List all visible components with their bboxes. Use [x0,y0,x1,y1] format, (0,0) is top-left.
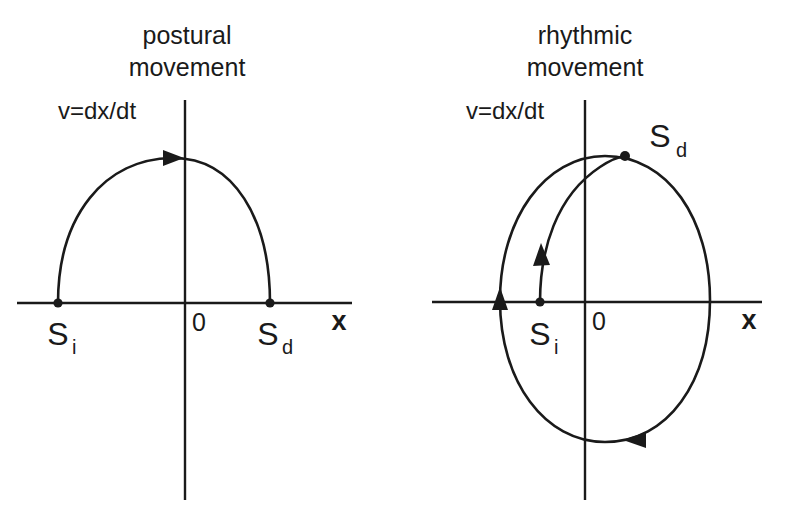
panel-rhythmic: rhythmic movement v=dx/dt x 0 S d S i [432,21,762,500]
postural-point-s-i-dot [53,298,62,307]
rhythmic-point-s-i-subscript: i [554,336,558,358]
postural-point-s-i-subscript: i [72,336,76,358]
panel-postural-title-line1: postural [143,21,232,49]
panel-rhythmic-x-axis-name: x [741,305,756,335]
panel-postural-origin-label: 0 [192,308,206,336]
rhythmic-limit-cycle-arrowhead-left [492,287,508,310]
rhythmic-point-s-i-label: S [529,316,550,352]
postural-trajectory-curve [58,158,270,303]
figure-canvas: postural movement v=dx/dt x 0 S i S d rh… [0,0,791,521]
rhythmic-point-s-d-label: S [649,118,670,154]
rhythmic-limit-cycle [500,156,710,442]
panel-rhythmic-title-line1: rhythmic [538,21,632,49]
postural-point-s-d-label: S [257,316,278,352]
panel-postural-title-line2: movement [129,53,246,81]
rhythmic-inner-transient [540,156,625,302]
postural-point-s-d-dot [265,298,274,307]
panel-postural-x-axis-name: x [331,306,346,336]
rhythmic-point-s-d-dot [620,151,630,161]
panel-rhythmic-y-axis-label: v=dx/dt [466,97,544,124]
rhythmic-point-s-d-subscript: d [676,139,687,161]
rhythmic-limit-cycle-arrowhead-bottom [623,432,646,448]
postural-point-s-d-subscript: d [282,336,293,358]
postural-trajectory-arrowhead [163,150,184,166]
panel-postural-y-axis-label: v=dx/dt [58,97,136,124]
panel-postural: postural movement v=dx/dt x 0 S i S d [17,21,352,500]
rhythmic-point-s-i-dot [535,297,544,306]
postural-point-s-i-label: S [47,316,68,352]
panel-rhythmic-origin-label: 0 [592,307,606,335]
phase-portrait-figure: postural movement v=dx/dt x 0 S i S d rh… [0,0,791,521]
panel-rhythmic-title-line2: movement [527,53,644,81]
